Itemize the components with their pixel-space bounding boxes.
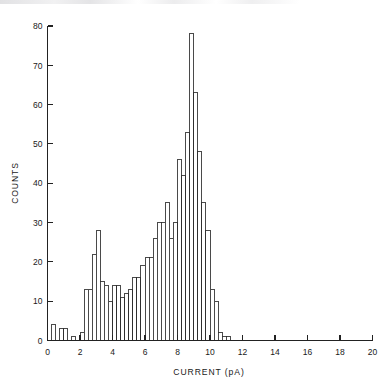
histogram-bar	[108, 301, 112, 340]
y-axis-tick-label: 50	[33, 139, 43, 149]
histogram-bar	[182, 175, 186, 340]
histogram-bar	[149, 258, 153, 341]
histogram-bar	[64, 329, 68, 341]
histogram-bar	[202, 203, 206, 341]
histogram-bar	[206, 230, 210, 340]
histogram-bar	[104, 285, 108, 340]
histogram-bar	[165, 203, 169, 341]
histogram-bars	[52, 34, 231, 341]
histogram-bar	[153, 238, 157, 340]
histogram-bar	[218, 333, 222, 341]
y-axis-tick-label: 30	[33, 218, 43, 228]
histogram-bar	[141, 266, 145, 341]
x-axis-tick-label: 8	[175, 347, 180, 357]
histogram-bar	[84, 289, 88, 340]
y-axis-title: COUNTS	[10, 162, 20, 204]
y-axis-tick-label: 70	[33, 61, 43, 71]
histogram-bar	[113, 285, 117, 340]
histogram-bar	[178, 160, 182, 341]
histogram-bar	[117, 285, 121, 340]
x-axis-tick-label: 14	[270, 347, 280, 357]
x-axis-tick-label: 18	[335, 347, 345, 357]
histogram-bar	[96, 230, 100, 340]
histogram-bar	[137, 278, 141, 341]
y-axis-tick-label: 0	[38, 336, 43, 346]
x-axis-title: CURRENT (pA)	[173, 367, 244, 377]
histogram-bar	[145, 258, 149, 341]
histogram-bar	[169, 238, 173, 340]
histogram-bar	[186, 132, 190, 340]
y-axis-tick-label: 10	[33, 296, 43, 306]
histogram-bar	[72, 337, 76, 341]
histogram-bar	[198, 152, 202, 341]
histogram-bar	[92, 254, 96, 340]
histogram-bar	[133, 278, 137, 341]
histogram-bar	[226, 337, 230, 341]
y-axis-tick-label: 60	[33, 100, 43, 110]
histogram-bar	[60, 329, 64, 341]
y-axis-tick-label: 40	[33, 178, 43, 188]
histogram-bar	[173, 223, 177, 341]
histogram-bar	[190, 34, 194, 341]
x-axis-tick-label: 6	[143, 347, 148, 357]
histogram-bar	[125, 293, 129, 340]
y-axis-tick-label: 80	[33, 21, 43, 31]
y-axis-ticks: 01020304050607080	[33, 21, 53, 346]
histogram-bar	[80, 333, 84, 341]
histogram-bar	[157, 223, 161, 341]
histogram-bar	[121, 297, 125, 340]
x-axis-tick-label: 16	[303, 347, 313, 357]
histogram-bar	[52, 325, 56, 341]
x-axis-tick-label: 2	[78, 347, 83, 357]
x-axis-tick-label: 12	[238, 347, 248, 357]
x-axis-tick-label: 0	[45, 347, 50, 357]
histogram-bar	[214, 301, 218, 340]
x-axis-tick-label: 10	[205, 347, 215, 357]
histogram-bar	[222, 337, 226, 341]
current-histogram-chart: 01020304050607080 02468101214161820 CURR…	[0, 0, 392, 382]
histogram-bar	[194, 93, 198, 341]
x-axis-tick-label: 20	[368, 347, 378, 357]
x-axis-tick-label: 4	[110, 347, 115, 357]
histogram-bar	[210, 289, 214, 340]
histogram-bar	[129, 289, 133, 340]
histogram-bar	[100, 282, 104, 341]
histogram-figure: 01020304050607080 02468101214161820 CURR…	[0, 0, 392, 382]
histogram-bar	[161, 223, 165, 341]
histogram-bar	[88, 289, 92, 340]
y-axis-tick-label: 20	[33, 257, 43, 267]
